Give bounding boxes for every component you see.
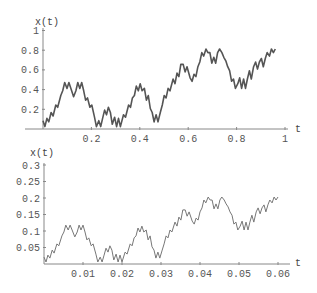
y-tick-label: 0.15 [16,210,40,221]
x-tick-label: 0.6 [179,134,197,145]
y-tick-label: 0.4 [21,85,39,96]
top-ticks: 0.20.40.60.810.20.40.60.81 [21,26,288,145]
top-plot: x(t) t 0.20.40.60.810.20.40.60.81 [21,17,301,145]
bottom-plot: x(t) t 0.010.020.030.040.050.060.050.10.… [16,148,301,280]
x-tick-label: 0.05 [227,269,251,280]
x-tick-label: 0.4 [131,134,149,145]
y-tick-label: 0.2 [21,105,39,116]
y-tick-label: 0.3 [22,161,40,172]
y-tick-label: 0.05 [16,243,40,254]
x-tick-label: 0.01 [71,269,95,280]
x-tick-label: 0.06 [266,269,290,280]
chart-canvas: x(t) t 0.20.40.60.810.20.40.60.81 x(t) t… [0,0,317,293]
top-x-axis-label: t [295,124,301,135]
bottom-data-line [44,197,278,262]
y-tick-label: 0.8 [21,46,39,57]
bottom-ticks: 0.010.020.030.040.050.060.050.10.150.20.… [16,161,290,281]
y-tick-label: 0.1 [22,227,40,238]
bottom-y-axis-label: x(t) [30,148,54,159]
x-tick-label: 0.02 [110,269,134,280]
y-tick-label: 0.2 [22,194,40,205]
x-tick-label: 0.8 [228,134,246,145]
y-tick-label: 1 [33,26,39,37]
y-tick-label: 0.25 [16,177,40,188]
x-tick-label: 0.03 [149,269,173,280]
bottom-x-axis-label: t [295,258,301,269]
x-tick-label: 0.04 [188,269,212,280]
top-data-line [43,49,275,127]
x-tick-label: 0.2 [82,134,100,145]
x-tick-label: 1 [282,134,288,145]
y-tick-label: 0.6 [21,65,39,76]
